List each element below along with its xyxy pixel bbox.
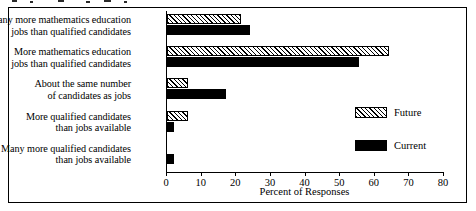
bar-current	[167, 154, 174, 164]
value-axis-tick	[305, 172, 306, 176]
legend-label: Future	[394, 106, 421, 119]
legend-swatch-future-icon	[355, 107, 387, 118]
value-axis-tick	[374, 172, 375, 176]
value-axis-tick	[235, 172, 236, 176]
legend-label: Current	[394, 139, 426, 152]
bar-group: Many more mathematics education jobs tha…	[167, 11, 444, 43]
value-axis-tick	[443, 172, 444, 176]
bar-group: About the same number of candidates as j…	[167, 75, 444, 107]
category-label-line: More mathematics education	[0, 46, 131, 58]
chart-legend: Future Current	[355, 106, 450, 158]
bar-future	[167, 46, 389, 56]
category-label-line: About the same number	[0, 78, 131, 90]
category-label-line: Many more mathematics education	[0, 14, 131, 26]
legend-entry-current: Current	[355, 139, 450, 158]
value-axis-tick	[270, 172, 271, 176]
bar-future	[167, 14, 241, 24]
bar-current	[167, 25, 250, 35]
value-axis-tick	[339, 172, 340, 176]
category-label-line: jobs than qualified candidates	[0, 26, 131, 38]
bar-current	[167, 122, 174, 132]
cropped-text-fragments-above-frame	[0, 0, 476, 7]
bar-future	[167, 78, 188, 88]
bar-current	[167, 57, 359, 67]
bar-current	[167, 89, 226, 99]
category-label: Many more qualified candidates than jobs…	[0, 143, 131, 166]
category-label-line: than jobs available	[0, 122, 131, 134]
category-label-line: Many more qualified candidates	[0, 143, 131, 155]
category-label-line: than jobs available	[0, 154, 131, 166]
category-label: Many more mathematics education jobs tha…	[0, 14, 131, 37]
category-label: About the same number of candidates as j…	[0, 78, 131, 101]
legend-entry-future: Future	[355, 106, 450, 125]
bar-group: More mathematics education jobs than qua…	[167, 43, 444, 75]
value-axis-tick	[166, 172, 167, 176]
value-axis-tick	[201, 172, 202, 176]
legend-swatch-current-icon	[355, 140, 387, 151]
category-label-line: jobs than qualified candidates	[0, 58, 131, 70]
category-label: More mathematics education jobs than qua…	[0, 46, 131, 69]
category-label: More qualified candidates than jobs avai…	[0, 111, 131, 134]
category-label-line: More qualified candidates	[0, 111, 131, 123]
value-axis-tick	[408, 172, 409, 176]
bar-future	[167, 111, 188, 121]
x-axis-title: Percent of Responses	[166, 186, 443, 198]
category-label-line: of candidates as jobs	[0, 90, 131, 102]
